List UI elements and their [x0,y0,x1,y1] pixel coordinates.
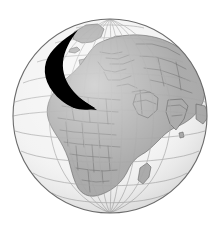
globe-shading [13,19,207,213]
globe-figure: Orthographic globe showing Europe, Afric… [0,0,217,226]
globe-svg: Orthographic globe showing Europe, Afric… [0,0,217,226]
